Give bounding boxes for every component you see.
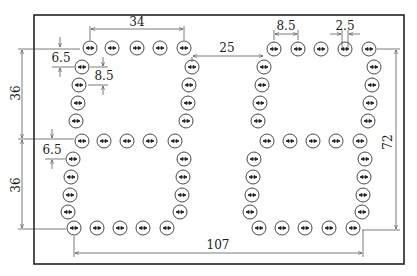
led-icon — [67, 221, 81, 235]
led-icon — [355, 205, 369, 219]
left-digit — [61, 41, 199, 235]
led-icon — [66, 152, 80, 166]
led-icon — [283, 134, 297, 148]
led-icon — [298, 221, 312, 235]
led-icon — [168, 134, 182, 148]
led-icon — [136, 221, 150, 235]
led-icon — [179, 114, 193, 128]
led-icon — [177, 41, 191, 55]
label-led-size: 2.5 — [335, 19, 354, 33]
led-icon — [71, 96, 85, 110]
led-icon — [260, 134, 274, 148]
dim-digit-gap: 25 — [192, 41, 263, 62]
led-icon — [243, 205, 257, 219]
led-icon — [176, 170, 190, 184]
label-digit-width: 34 — [129, 15, 145, 29]
label-lower-height: 36 — [9, 177, 23, 192]
dim-row-offset: 8.5 — [88, 57, 114, 95]
led-icon — [363, 96, 377, 110]
led-icon — [356, 188, 370, 202]
led-icon — [90, 221, 104, 235]
label-upper-height: 36 — [9, 85, 23, 100]
led-icon — [173, 205, 187, 219]
right-digit — [243, 42, 381, 235]
led-icon — [153, 41, 167, 55]
dim-digit-width: 34 — [90, 15, 184, 40]
led-icon — [267, 42, 281, 56]
led-icon — [329, 134, 343, 148]
led-icon — [322, 221, 336, 235]
led-icon — [314, 42, 328, 56]
led-icon — [365, 78, 379, 92]
led-icon — [291, 42, 305, 56]
label-led-pitch: 8.5 — [276, 19, 295, 33]
led-icon — [306, 134, 320, 148]
led-icon — [72, 78, 86, 92]
led-icon — [83, 41, 97, 55]
dim-top-offset: 6.5 — [51, 37, 74, 77]
dim-middle-offset: 6.5 — [42, 129, 65, 169]
led-icon — [185, 60, 199, 74]
led-icon — [338, 42, 352, 56]
label-total-height: 72 — [381, 134, 395, 149]
led-icon — [182, 78, 196, 92]
led-icon — [367, 60, 381, 74]
led-icon — [251, 114, 265, 128]
led-icon — [245, 188, 259, 202]
led-icon — [252, 221, 266, 235]
led-icon — [362, 42, 376, 56]
led-icon — [130, 41, 144, 55]
led-icon — [113, 221, 127, 235]
led-icon — [353, 134, 367, 148]
dim-led-pitch: 8.5 — [274, 19, 298, 40]
led-icon — [143, 134, 157, 148]
led-icon — [255, 78, 269, 92]
led-icon — [253, 96, 267, 110]
led-icon — [177, 152, 191, 166]
led-icon — [275, 221, 289, 235]
led-icon — [75, 60, 89, 74]
label-middle-offset: 6.5 — [42, 143, 61, 157]
label-total-width: 107 — [207, 238, 230, 252]
led-icon — [69, 114, 83, 128]
label-row-offset: 8.5 — [94, 69, 113, 83]
led-icon — [181, 96, 195, 110]
label-digit-gap: 25 — [219, 41, 234, 55]
led-icon — [63, 188, 77, 202]
led-icon — [120, 134, 134, 148]
led-icon — [358, 152, 372, 166]
led-icon — [246, 170, 260, 184]
led-icon — [247, 152, 261, 166]
led-icon — [160, 221, 174, 235]
led-icon — [346, 221, 360, 235]
led-icon — [175, 188, 189, 202]
led-icon — [257, 60, 271, 74]
led-icon — [105, 41, 119, 55]
led-icon — [361, 114, 375, 128]
led-icon — [357, 170, 371, 184]
led-icon — [75, 134, 89, 148]
led-icon — [97, 134, 111, 148]
led-icon — [64, 170, 78, 184]
led-display-diagram: 34 25 8.5 2.5 36 36 6.5 — [0, 0, 417, 276]
led-icon — [61, 205, 75, 219]
label-top-offset: 6.5 — [51, 51, 70, 65]
dim-total-height: 72 — [362, 49, 400, 230]
